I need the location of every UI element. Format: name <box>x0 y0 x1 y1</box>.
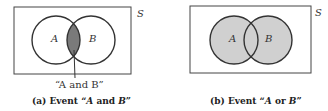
set-b-label: B <box>264 33 272 44</box>
set-a-label: A <box>228 33 236 44</box>
panel-a-and-b: S A B “A and B” (a) Event “A and B” <box>14 7 144 106</box>
panel-a-or-b: S A B (b) Event “A or B” <box>190 6 322 106</box>
caption-a: (a) Event “A and B” <box>32 96 131 106</box>
set-b-label: B <box>88 33 96 44</box>
universe-label: S <box>315 7 322 18</box>
universe-label: S <box>137 8 144 19</box>
callout-label: “A and B” <box>55 79 104 90</box>
caption-b: (b) Event “A or B” <box>210 96 302 106</box>
set-a-label: A <box>50 33 58 44</box>
venn-diagrams: S A B “A and B” (a) Event “A and B” S A … <box>0 0 328 111</box>
